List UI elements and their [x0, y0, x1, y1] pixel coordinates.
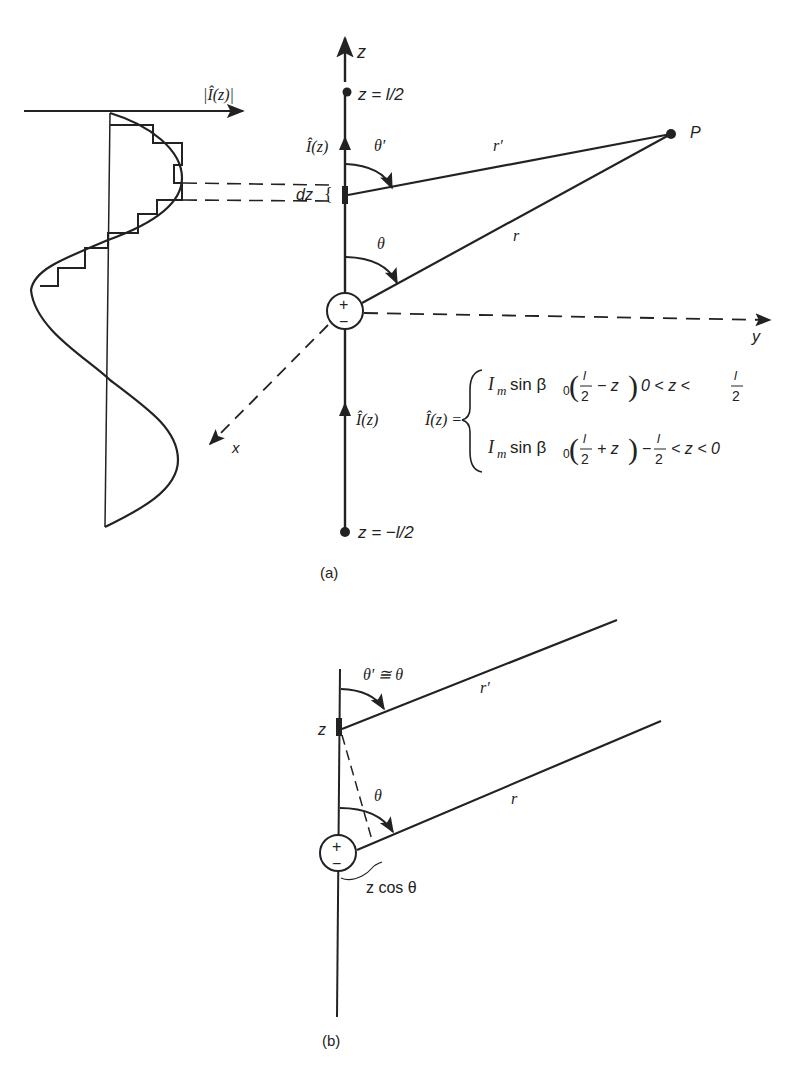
svg-text:0 < z <: 0 < z <: [641, 377, 690, 394]
current-arrow-upper-icon: [339, 136, 351, 150]
svg-text:l: l: [657, 431, 661, 446]
svg-text:): ): [628, 432, 638, 466]
projection-label: z cos θ: [366, 879, 417, 896]
svg-text:(: (: [569, 369, 579, 403]
svg-text:+ z: + z: [597, 440, 619, 457]
r-prime-label-b: r′: [480, 679, 490, 696]
equation-brace: [462, 370, 482, 472]
caption-a: (a): [320, 564, 338, 581]
svg-text:− z: − z: [597, 377, 619, 394]
source-plus: +: [339, 296, 348, 313]
dz-element: [342, 186, 348, 204]
r-prime-line: [348, 134, 671, 195]
svg-text:sin β: sin β: [510, 438, 546, 457]
r-line-b: [357, 721, 661, 850]
x-axis-label: x: [231, 439, 240, 456]
caption-b: (b): [322, 1032, 340, 1049]
source-minus: −: [339, 313, 348, 330]
current-distribution-plot: [24, 111, 243, 527]
theta-prime-arc-b: [341, 689, 384, 709]
svg-text:I: I: [487, 374, 495, 394]
svg-text:< z < 0: < z < 0: [671, 440, 720, 457]
current-label-lower: Î(z): [355, 410, 378, 429]
current-equation: Î(z) = I m sin β 0 ( l 2 − z ) 0 < z < l…: [424, 368, 743, 472]
source-plus-b: +: [332, 838, 341, 855]
theta-prime-label: θ′: [374, 137, 386, 154]
point-p-label: P: [690, 124, 701, 141]
y-axis: [364, 313, 770, 320]
equation-lhs: Î(z) =: [424, 410, 462, 429]
svg-text:2: 2: [581, 388, 589, 404]
svg-text:2: 2: [655, 451, 663, 467]
dz-label: dz: [296, 186, 313, 203]
theta-arc: [346, 257, 397, 283]
svg-text:2: 2: [732, 388, 740, 404]
bottom-end-label: z = −l/2: [357, 523, 414, 542]
source-minus-b: −: [332, 855, 341, 872]
svg-text:−: −: [642, 440, 651, 457]
figure-a-labels: |Î(z)| z z = l/2 Î(z) θ′ r′ P dz { θ r +…: [203, 42, 761, 581]
top-end-label: z = l/2: [357, 85, 404, 104]
svg-text:m: m: [497, 383, 506, 398]
r-label: r: [513, 227, 520, 244]
staircase-approximation: [40, 125, 182, 286]
theta-prime-arc: [346, 164, 392, 188]
current-magnitude-label: |Î(z)|: [203, 85, 234, 104]
r-label-b: r: [511, 790, 518, 807]
theta-approx-label: θ′ ≅ θ: [363, 666, 403, 683]
z-axis-label: z: [356, 42, 366, 62]
r-prime-label: r′: [493, 137, 503, 154]
svg-text:sin β: sin β: [510, 375, 546, 394]
current-label-upper: Î(z): [305, 137, 328, 156]
svg-text:(: (: [569, 432, 579, 466]
z-element-b: [336, 718, 342, 736]
z-label-b: z: [317, 721, 326, 738]
current-arrow-lower-icon: [339, 402, 351, 416]
theta-label: θ: [377, 235, 385, 252]
point-p-dot: [666, 129, 676, 139]
dipole-antenna-diagram: |Î(z)| z z = l/2 Î(z) θ′ r′ P dz { θ r +…: [0, 0, 789, 1065]
bottom-end-dot: [340, 527, 350, 537]
svg-text:): ): [628, 369, 638, 403]
svg-text:2: 2: [581, 451, 589, 467]
y-axis-label: y: [751, 328, 761, 345]
r-line: [362, 134, 671, 303]
theta-label-b: θ: [374, 787, 382, 804]
top-end-dot: [343, 88, 352, 97]
dz-projection-upper: [183, 183, 330, 185]
x-axis: [210, 325, 328, 444]
svg-text:l: l: [583, 431, 587, 446]
svg-text:m: m: [497, 446, 506, 461]
plot-baseline: [105, 113, 110, 527]
svg-text:I: I: [487, 437, 495, 457]
svg-text:l: l: [583, 368, 587, 383]
svg-text:l: l: [734, 368, 738, 383]
dz-brace: {: [324, 184, 333, 204]
projection-dash-b: [342, 735, 372, 840]
